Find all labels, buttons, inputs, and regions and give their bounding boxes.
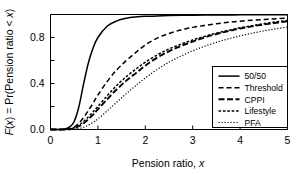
- x-tick-labels: 012345: [48, 134, 291, 146]
- x-tick-label: 4: [237, 134, 243, 146]
- legend-label-cppi: CPPI: [245, 95, 265, 105]
- legend-label-lifestyle: Lifestyle: [245, 106, 277, 116]
- x-tick-label: 5: [285, 134, 291, 146]
- legend-label-threshold: Threshold: [245, 83, 283, 93]
- y-axis-title: F(x) = Pr(Pension ratio < x): [3, 9, 15, 136]
- figure-container: 012345 0.00.40.8 Pension ratio, x F(x) =…: [0, 0, 298, 174]
- chart-legend: 50/50ThresholdCPPILifestylePFA: [213, 67, 288, 128]
- cdf-line-chart: 012345 0.00.40.8 Pension ratio, x F(x) =…: [0, 0, 298, 174]
- x-tick-label: 2: [142, 134, 148, 146]
- legend-label-pfa: PFA: [245, 118, 262, 128]
- legend-label-50-50: 50/50: [245, 71, 267, 81]
- x-axis-title: Pension ratio, x: [132, 157, 205, 169]
- y-tick-labels: 0.00.40.8: [30, 31, 45, 135]
- x-tick-label: 3: [190, 134, 196, 146]
- y-tick-label: 0.8: [30, 31, 45, 43]
- x-tick-label: 1: [95, 134, 101, 146]
- x-tick-label: 0: [48, 134, 54, 146]
- y-tick-label: 0.4: [30, 77, 45, 89]
- y-tick-label: 0.0: [30, 123, 45, 135]
